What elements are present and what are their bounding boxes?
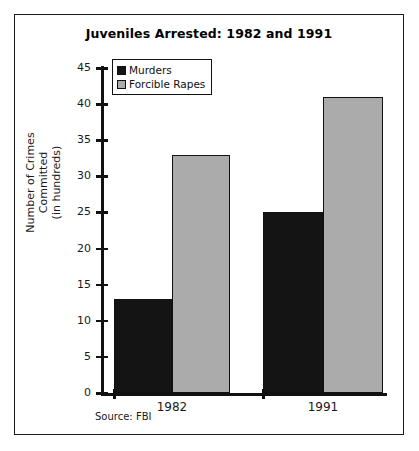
- legend-swatch-murders-icon: [117, 66, 126, 75]
- y-tick-20: [96, 248, 108, 251]
- y-tick-25: [96, 211, 108, 214]
- y-tick-label-20: 20: [51, 243, 91, 254]
- x-axis-label-1991: 1991: [243, 400, 403, 414]
- x-tick-1991: [262, 389, 265, 399]
- y-tick-0: [96, 392, 108, 395]
- x-axis-line: [101, 393, 387, 396]
- bar-1982-murders: [114, 299, 172, 393]
- y-tick-label-0: 0: [51, 387, 91, 398]
- legend-item-murders: Murders: [117, 63, 205, 77]
- y-tick-45: [96, 67, 108, 70]
- y-tick-10: [96, 320, 108, 323]
- y-tick-40: [96, 103, 108, 106]
- y-tick-15: [96, 284, 108, 287]
- legend-label-forcible-rapes: Forcible Rapes: [129, 79, 205, 90]
- y-tick-label-5: 5: [51, 351, 91, 362]
- y-tick-label-45: 45: [51, 62, 91, 73]
- y-tick-label-10: 10: [51, 315, 91, 326]
- chart-legend: Murders Forcible Rapes: [112, 59, 212, 95]
- legend-swatch-forcible-rapes-icon: [117, 80, 126, 89]
- bar-1991-murders: [263, 212, 323, 393]
- y-tick-label-35: 35: [51, 134, 91, 145]
- legend-label-murders: Murders: [129, 65, 172, 76]
- bar-1982-forcible-rapes: [172, 155, 230, 393]
- y-axis-line: [101, 66, 104, 396]
- y-tick-label-25: 25: [51, 206, 91, 217]
- y-tick-label-30: 30: [51, 170, 91, 181]
- y-tick-5: [96, 356, 108, 359]
- bar-1991-forcible-rapes: [323, 97, 383, 393]
- legend-item-forcible-rapes: Forcible Rapes: [117, 77, 205, 91]
- y-tick-35: [96, 139, 108, 142]
- source-note: Source: FBI: [95, 411, 151, 422]
- y-tick-30: [96, 175, 108, 178]
- x-tick-1982: [113, 389, 116, 399]
- chart-figure: Juveniles Arrested: 1982 and 1991 Number…: [14, 14, 404, 435]
- y-tick-label-40: 40: [51, 98, 91, 109]
- y-tick-label-15: 15: [51, 279, 91, 290]
